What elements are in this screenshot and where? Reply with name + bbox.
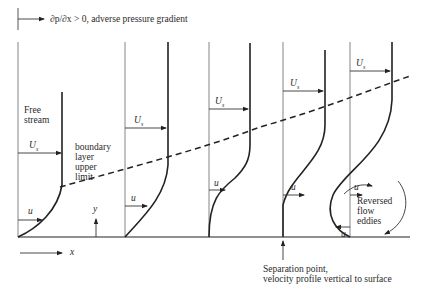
reversed-flow-line1: Reversed	[357, 196, 392, 206]
velocity-profile-3	[209, 43, 250, 237]
reference-lines	[18, 42, 350, 237]
u-label-3: u	[214, 178, 219, 188]
u-label-4: u	[291, 182, 296, 192]
us-label-3: Us	[215, 96, 224, 110]
pressure-gradient-label: ∂p/∂x > 0, adverse pressure gradient	[50, 14, 188, 24]
us-label-1: Us	[29, 140, 38, 154]
us-label-2: Us	[134, 115, 143, 129]
us-label-4: Us	[290, 78, 299, 92]
u-label-5: u	[354, 182, 359, 192]
free-stream-arrows	[18, 71, 390, 153]
pressure-gradient-arrow	[18, 8, 44, 30]
diagram-canvas	[0, 0, 424, 292]
free-stream-label-line2: stream	[24, 115, 49, 125]
bl-label-line1: boundary	[75, 142, 111, 152]
u-label-reverse: u	[341, 229, 346, 239]
velocity-profile-2	[125, 42, 168, 237]
bl-label-line3: upper	[75, 162, 97, 172]
x-axis-label: x	[70, 247, 74, 257]
u-label-1: u	[28, 206, 33, 216]
bl-label-line2: layer	[75, 152, 94, 162]
boundary-layer-limit	[60, 76, 410, 187]
separation-label-line2: velocity profile vertical to surface	[263, 274, 392, 284]
y-axis-label: y	[93, 204, 97, 214]
local-velocity-arrows	[18, 190, 362, 227]
bl-label-line4: limit	[75, 172, 93, 182]
us-label-5: Us	[356, 58, 365, 72]
reversed-flow-line3: eddies	[357, 216, 381, 226]
u-label-2: u	[131, 193, 136, 203]
free-stream-label-line1: Free	[24, 105, 41, 115]
reversed-flow-line2: flow	[357, 206, 374, 216]
reversed-flow-eddy-arrow-lower	[385, 181, 406, 234]
separation-label-line1: Separation point,	[263, 264, 328, 274]
